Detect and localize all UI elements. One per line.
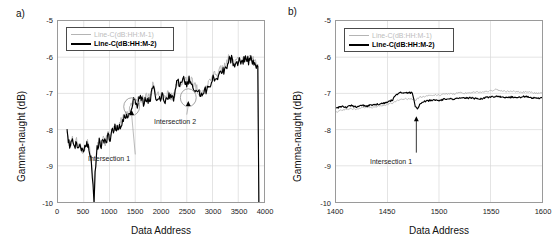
legend-swatch-m1 [349, 35, 369, 36]
panel-a-annotation-intersection-1: Intersection 1 [88, 155, 130, 162]
panel-a-legend: Line-C(dB:HH:M-1) Line-C(dB:HH:M-2) [66, 27, 174, 51]
legend-entry-m2: Line-C(dB:HH:M-2) [71, 39, 169, 48]
panel-b: b) Gamma-naught (dB) -5-6-7-8-9-10 14001… [280, 0, 559, 251]
y-tick-label: -9 [31, 162, 53, 171]
panel-b-y-axis-title: Gamma-naught (dB) [292, 91, 303, 182]
x-tick-label: 1550 [474, 207, 508, 216]
legend-entry-m2: Line-C(dB:HH:M-2) [349, 40, 449, 49]
panel-b-x-axis-title: Data Address [335, 225, 543, 236]
legend-label-m2: Line-C(dB:HH:M-2) [94, 39, 157, 48]
panel-a-y-axis-title: Gamma-naught (dB) [16, 91, 27, 182]
y-tick-label: -8 [31, 125, 53, 134]
x-tick-label: 1600 [526, 207, 559, 216]
figure-dual-line-charts: a) Gamma-naught (dB) -5-6-7-8-9-10 05001… [0, 0, 559, 251]
x-tick-label: 1400 [318, 207, 352, 216]
panel-a-annotation-intersection-2: Intersection 2 [154, 118, 196, 125]
y-tick-label: -7 [31, 89, 53, 98]
x-tick-label: 1500 [422, 207, 456, 216]
legend-entry-m1: Line-C(dB:HH:M-1) [71, 30, 169, 39]
panel-b-legend: Line-C(dB:HH:M-1) Line-C(dB:HH:M-2) [344, 28, 454, 52]
legend-swatch-m1 [71, 34, 91, 35]
legend-swatch-m2 [71, 43, 91, 45]
y-tick-label: -5 [309, 16, 331, 25]
panel-a-x-axis-title: Data Address [57, 225, 265, 236]
y-tick-label: -9 [309, 162, 331, 171]
x-tick-label: 1450 [370, 207, 404, 216]
y-tick-label: -8 [309, 125, 331, 134]
legend-label-m1: Line-C(dB:HH:M-1) [94, 30, 154, 39]
y-tick-label: -5 [31, 16, 53, 25]
panel-a: a) Gamma-naught (dB) -5-6-7-8-9-10 05001… [0, 0, 279, 251]
legend-entry-m1: Line-C(dB:HH:M-1) [349, 31, 449, 40]
y-tick-label: -7 [309, 89, 331, 98]
panel-b-annotation-intersection-1: Intersection 1 [370, 158, 412, 165]
legend-label-m1: Line-C(dB:HH:M-1) [372, 31, 432, 40]
panel-b-label: b) [288, 6, 297, 17]
legend-label-m2: Line-C(dB:HH:M-2) [372, 40, 435, 49]
panel-a-label: a) [16, 8, 25, 19]
x-tick-label: 4000 [248, 207, 282, 216]
y-tick-label: -6 [309, 52, 331, 61]
legend-swatch-m2 [349, 44, 369, 46]
y-tick-label: -6 [31, 52, 53, 61]
